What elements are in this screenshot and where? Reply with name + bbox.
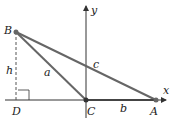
point-B <box>14 30 19 35</box>
right-angle-marker <box>18 90 29 100</box>
label-x-axis: x <box>163 85 169 96</box>
label-h: h <box>6 65 13 76</box>
label-B: B <box>4 25 12 36</box>
point-A <box>154 98 159 103</box>
label-D: D <box>12 106 21 117</box>
label-a: a <box>44 67 51 78</box>
label-b: b <box>120 103 127 114</box>
label-A: A <box>150 106 158 117</box>
label-y-axis: y <box>91 5 97 16</box>
label-C: C <box>87 106 95 117</box>
triangle-diagram <box>0 0 170 125</box>
point-C <box>84 98 89 103</box>
label-c: c <box>93 59 99 70</box>
